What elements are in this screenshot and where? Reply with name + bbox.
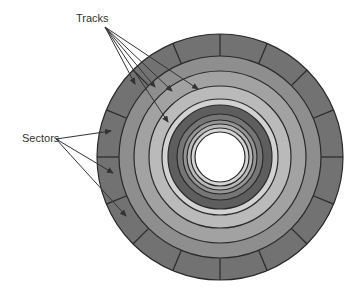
disk-diagram [0, 0, 360, 296]
center-hole [195, 132, 245, 182]
tracks-label: Tracks [76, 12, 109, 24]
annotation-arrow [105, 27, 135, 84]
sectors-label: Sectors [22, 132, 59, 144]
